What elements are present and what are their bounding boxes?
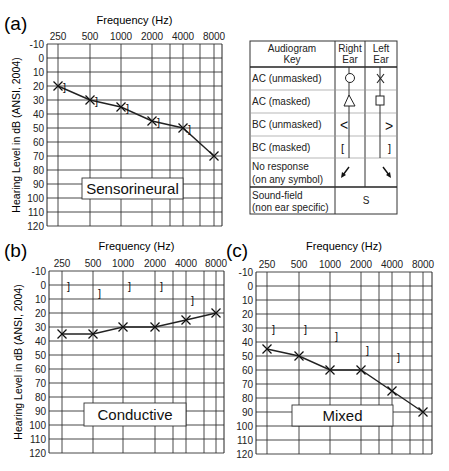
legend-header-key: Audiogram bbox=[268, 43, 316, 54]
legend-row-bc-unmasked: BC (unmasked) bbox=[252, 119, 321, 130]
bc-masked-marker: ] bbox=[67, 280, 70, 292]
legend-header-left: Left bbox=[373, 43, 390, 54]
square-icon bbox=[376, 96, 384, 105]
bc-masked-marker: ] bbox=[188, 123, 191, 135]
sound-field-symbol: S bbox=[363, 195, 370, 206]
y-tick-label: 10 bbox=[33, 67, 45, 78]
y-tick-label: 30 bbox=[35, 322, 47, 333]
bc-masked-marker: ] bbox=[191, 294, 194, 306]
y-tick-label: 50 bbox=[35, 350, 47, 361]
circle-icon bbox=[346, 74, 355, 83]
y-tick-label: 30 bbox=[242, 323, 254, 334]
hearing-loss-type-label: Mixed bbox=[322, 407, 362, 424]
bc-masked-marker: ] bbox=[63, 81, 66, 93]
x-tick-label: 1000 bbox=[110, 31, 133, 42]
y-tick-label: 20 bbox=[242, 309, 254, 320]
bc-unmasked-right-symbol: < bbox=[340, 117, 348, 133]
x-tick-label: 2000 bbox=[141, 31, 164, 42]
bc-masked-marker: ] bbox=[272, 323, 275, 335]
x-axis-title: Frequency (Hz) bbox=[97, 14, 173, 26]
hearing-loss-type-label: Sensorineural bbox=[86, 180, 179, 197]
y-tick-label: 100 bbox=[236, 421, 253, 432]
y-tick-label: 40 bbox=[33, 109, 45, 120]
x-tick-label: 4000 bbox=[381, 259, 404, 270]
y-tick-label: 80 bbox=[242, 393, 254, 404]
bc-masked-marker: ] bbox=[304, 323, 307, 335]
bc-masked-marker: ] bbox=[157, 116, 160, 128]
panel-a-chart: (a)Frequency (Hz)-1001020304050607080901… bbox=[4, 13, 226, 232]
y-tick-label: 20 bbox=[33, 81, 45, 92]
y-tick-label: 70 bbox=[33, 151, 45, 162]
y-tick-label: 90 bbox=[242, 407, 254, 418]
y-tick-label: 40 bbox=[35, 336, 47, 347]
y-tick-label: 110 bbox=[28, 207, 44, 218]
x-tick-label: 4000 bbox=[175, 258, 198, 269]
y-tick-label: 0 bbox=[247, 281, 253, 292]
legend-row-ac-unmasked: AC (unmasked) bbox=[252, 73, 321, 84]
y-tick-label: 60 bbox=[33, 137, 45, 148]
y-tick-label: -10 bbox=[30, 39, 45, 50]
bc-masked-marker: ] bbox=[128, 280, 131, 292]
y-tick-label: 40 bbox=[242, 337, 254, 348]
y-tick-label: 120 bbox=[236, 449, 253, 460]
ac-threshold-line bbox=[62, 313, 216, 334]
y-tick-label: 110 bbox=[237, 435, 253, 446]
y-axis-label: Hearing Level in dB (ANSI, 2004) bbox=[10, 57, 22, 212]
arrow-down-right-icon bbox=[383, 167, 391, 178]
y-tick-label: 100 bbox=[29, 420, 46, 431]
bc-masked-left-symbol: ] bbox=[388, 142, 391, 154]
x-tick-label: 8000 bbox=[203, 31, 226, 42]
legend-row-ac-masked: AC (masked) bbox=[252, 96, 310, 107]
y-tick-label: 120 bbox=[27, 221, 44, 232]
bc-unmasked-left-symbol: > bbox=[385, 118, 393, 134]
x-tick-label: 500 bbox=[82, 31, 99, 42]
y-tick-label: 10 bbox=[242, 295, 254, 306]
panel-c-chart: (c)Frequency (Hz)-1001020304050607080901… bbox=[226, 240, 435, 460]
legend-header-left-2: Ear bbox=[373, 54, 389, 65]
x-tick-label: 4000 bbox=[172, 31, 195, 42]
x-tick-label: 250 bbox=[54, 258, 71, 269]
y-tick-label: 0 bbox=[38, 53, 44, 64]
bc-masked-marker: ] bbox=[95, 95, 98, 107]
y-tick-label: 70 bbox=[242, 379, 254, 390]
x-axis-title: Frequency (Hz) bbox=[99, 240, 175, 252]
y-tick-label: 120 bbox=[29, 448, 46, 459]
x-axis-title: Frequency (Hz) bbox=[306, 240, 382, 252]
y-axis-label: Hearing Level in dB (ANSI, 2004) bbox=[12, 284, 24, 439]
y-tick-label: 30 bbox=[33, 95, 45, 106]
x-tick-label: 8000 bbox=[205, 258, 228, 269]
bc-masked-right-symbol: [ bbox=[341, 142, 344, 154]
bc-masked-marker: ] bbox=[335, 330, 338, 342]
y-tick-label: 50 bbox=[33, 123, 45, 134]
bc-masked-marker: ] bbox=[160, 280, 163, 292]
y-tick-label: 20 bbox=[35, 308, 47, 319]
x-tick-label: 8000 bbox=[412, 259, 435, 270]
y-tick-label: 60 bbox=[35, 364, 47, 375]
x-tick-label: 250 bbox=[259, 259, 276, 270]
x-tick-label: 500 bbox=[85, 258, 102, 269]
x-tick-label: 2000 bbox=[144, 258, 167, 269]
y-tick-label: 80 bbox=[33, 165, 45, 176]
bc-masked-marker: ] bbox=[366, 344, 369, 356]
arrow-down-left-icon bbox=[341, 167, 349, 178]
audiogram-figure: (a)Frequency (Hz)-1001020304050607080901… bbox=[0, 0, 449, 471]
legend-header-right-2: Ear bbox=[342, 54, 358, 65]
y-tick-label: 50 bbox=[242, 351, 254, 362]
triangle-icon bbox=[344, 95, 355, 106]
y-tick-label: 90 bbox=[33, 179, 45, 190]
x-tick-label: 1000 bbox=[112, 258, 135, 269]
hearing-loss-type-label: Conductive bbox=[97, 406, 172, 423]
y-tick-label: 60 bbox=[242, 365, 254, 376]
x-tick-label: 1000 bbox=[319, 259, 342, 270]
y-tick-label: 110 bbox=[30, 434, 46, 445]
y-tick-label: 80 bbox=[35, 392, 47, 403]
y-tick-label: -10 bbox=[239, 267, 254, 278]
x-tick-label: 500 bbox=[291, 259, 308, 270]
bc-masked-marker: ] bbox=[126, 102, 129, 114]
y-tick-label: 10 bbox=[35, 294, 47, 305]
audiogram-key-legend: Audiogram Key Right Ear Left Ear AC (unm… bbox=[250, 41, 397, 214]
panel-letter: (c) bbox=[226, 240, 248, 261]
y-tick-label: 90 bbox=[35, 406, 47, 417]
legend-row-no-response: No response bbox=[252, 161, 309, 172]
ac-threshold-line bbox=[58, 86, 214, 156]
